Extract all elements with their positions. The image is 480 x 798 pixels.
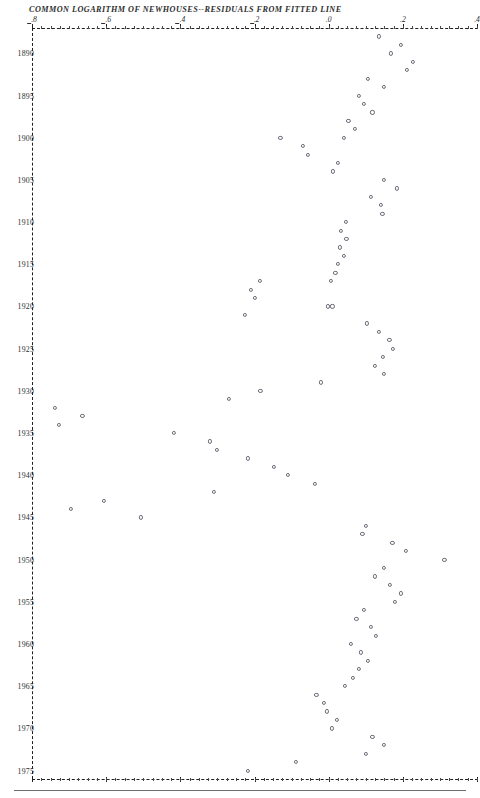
x-axis-minor-tickmark (69, 778, 70, 781)
data-point (354, 617, 358, 621)
x-axis-minor-tickmark (51, 778, 52, 781)
data-point (253, 296, 257, 300)
x-tick-label: .6 (101, 15, 111, 24)
x-axis-minor-tickmark (97, 26, 98, 29)
x-axis-minor-tickmark (301, 778, 302, 781)
x-axis-minor-tickmark (375, 26, 376, 29)
x-axis-minor-tickmark (125, 778, 126, 781)
x-axis-minor-tickmark (384, 778, 385, 781)
x-axis-minor-tickmark (421, 26, 422, 29)
x-axis-minor-tickmark (347, 778, 348, 781)
data-point (382, 743, 386, 747)
data-point (378, 203, 382, 207)
data-point (351, 676, 355, 680)
x-axis-minor-tickmark (319, 26, 320, 29)
x-axis-minor-tickmark (78, 26, 79, 29)
x-axis-minor-tickmark (134, 778, 135, 781)
x-axis-minor-tickmark (255, 778, 256, 781)
data-point (388, 583, 392, 587)
data-point (381, 372, 385, 376)
data-point (389, 51, 393, 55)
x-axis-minor-tickmark (153, 778, 154, 781)
x-axis-minor-tickmark (366, 778, 367, 781)
x-axis-minor-tickmark (180, 26, 181, 29)
x-axis-minor-tickmark (115, 26, 116, 29)
data-point (139, 515, 143, 519)
data-point (366, 659, 370, 663)
data-point (391, 347, 395, 351)
data-point (357, 667, 361, 671)
x-axis-minor-tickmark (440, 778, 441, 781)
x-axis-minor-tickmark (171, 26, 172, 29)
data-point (381, 178, 385, 182)
x-axis-minor-tickmark (125, 26, 126, 29)
x-axis-minor-tickmark (106, 778, 107, 781)
x-axis-minor-tickmark (41, 778, 42, 781)
x-axis-minor-tickmark (403, 26, 404, 29)
x-axis-minor-tickmark (477, 778, 478, 781)
y-tick-label: 1970 (0, 724, 34, 733)
x-axis-minor-tickmark (236, 778, 237, 781)
data-point (373, 574, 377, 578)
x-tick-label: .0 (326, 15, 332, 24)
data-point (329, 279, 333, 283)
x-axis-minor-tickmark (106, 26, 107, 29)
data-point (243, 313, 247, 317)
data-point (370, 110, 374, 114)
data-point (368, 195, 372, 199)
chart-title: COMMON LOGARITHM OF NEWHOUSES--RESIDUALS… (29, 5, 342, 14)
data-point (322, 701, 326, 705)
data-point (361, 102, 365, 106)
x-tick-label: .4 (474, 15, 480, 24)
x-axis-minor-tickmark (301, 26, 302, 29)
x-axis-minor-tickmark (356, 778, 357, 781)
data-point (53, 406, 57, 410)
data-point (335, 262, 339, 266)
data-point (353, 127, 357, 131)
x-axis-minor-tickmark (356, 26, 357, 29)
x-axis-minor-tickmark (366, 26, 367, 29)
data-point (349, 642, 353, 646)
data-point (285, 473, 289, 477)
data-point (342, 136, 346, 140)
x-axis-minor-tickmark (245, 26, 246, 29)
x-axis-minor-tickmark (227, 26, 228, 29)
data-point (399, 591, 403, 595)
data-point (359, 650, 363, 654)
y-tick-label: 1915 (0, 260, 34, 269)
x-axis-minor-tickmark (264, 778, 265, 781)
data-point (68, 507, 72, 511)
data-point (404, 549, 408, 553)
data-point (101, 498, 105, 502)
x-axis-minor-tickmark (310, 778, 311, 781)
y-tick-label: 1940 (0, 471, 34, 480)
x-axis-minor-tickmark (41, 26, 42, 29)
data-point (246, 456, 250, 460)
data-point (258, 279, 262, 283)
y-tick-label: 1895 (0, 91, 34, 100)
data-point (278, 136, 282, 140)
x-axis-minor-tickmark (282, 778, 283, 781)
y-tick-label: 1965 (0, 682, 34, 691)
x-axis-minor-tickmark (227, 778, 228, 781)
x-axis-minor-tickmark (190, 26, 191, 29)
data-point (344, 220, 348, 224)
data-point (365, 321, 369, 325)
x-axis-minor-tickmark (78, 778, 79, 781)
x-axis-minor-tickmark (69, 26, 70, 29)
data-point (399, 43, 403, 47)
x-axis-minor-tickmark (273, 778, 274, 781)
data-point (246, 768, 250, 772)
x-axis-minor-tickmark (292, 778, 293, 781)
data-point (294, 760, 298, 764)
data-point (368, 625, 372, 629)
x-axis-minor-tickmark (431, 26, 432, 29)
x-axis-minor-tickmark (134, 26, 135, 29)
x-axis-minor-tickmark (282, 26, 283, 29)
x-axis-minor-tickmark (245, 778, 246, 781)
x-axis-minor-tickmark (217, 26, 218, 29)
data-point (387, 338, 391, 342)
x-tick-label: .4 (175, 15, 185, 24)
data-point (258, 389, 262, 393)
x-tick-label: .2 (250, 15, 260, 24)
